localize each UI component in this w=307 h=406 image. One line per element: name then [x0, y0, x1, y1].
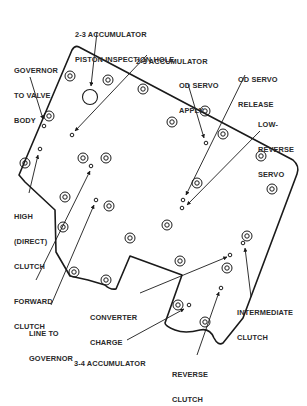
leader-lines	[29, 32, 260, 355]
label-line: APPLY	[179, 107, 219, 115]
bolt-hole-icon	[173, 300, 183, 310]
port-od-servo-release	[181, 198, 185, 202]
port-reverse-clutch	[219, 286, 223, 290]
port-2-3-accumulator	[70, 133, 74, 137]
label-governor-to-valve-body: GOVERNOR TO VALVE BODY	[14, 51, 58, 133]
bolt-hole-icon	[65, 71, 75, 81]
port-low-reverse-servo	[180, 206, 184, 210]
label-line: OD SERVO	[179, 82, 219, 90]
bolt-hole-icon	[162, 220, 172, 230]
port-converter-charge	[228, 253, 232, 257]
label-line: REVERSE	[258, 146, 294, 154]
leader-high-direct-clutch	[29, 155, 38, 193]
label-line: BODY	[14, 117, 58, 125]
port-intermediate-clutch	[241, 241, 245, 245]
bolt-hole-icon	[58, 222, 68, 232]
bolt-hole-icon	[218, 129, 228, 139]
label-line: CLUTCH	[172, 396, 208, 404]
label-line: OD SERVO	[238, 76, 278, 84]
label-line: 3-4 ACCUMULATOR	[74, 360, 146, 368]
label-reverse-clutch: REVERSE CLUTCH	[172, 355, 208, 406]
bolt-hole-icon	[104, 201, 114, 211]
bolt-hole-icon	[60, 192, 70, 202]
label-line: FORWARD	[14, 298, 53, 306]
port-high-direct-clutch	[38, 147, 42, 151]
leader-low-reverse-servo	[187, 131, 260, 205]
leader-converter-charge	[140, 257, 227, 293]
label-line: LINE TO	[29, 330, 73, 338]
label-line: GOVERNOR	[14, 67, 58, 75]
port-line-to-governor	[94, 198, 98, 202]
label-line: CONVERTER	[90, 314, 137, 322]
label-line: 2-3 ACCUMULATOR	[75, 31, 174, 39]
bolt-hole-icon	[101, 153, 111, 163]
label-line: INTERMEDIATE	[237, 309, 293, 317]
label-line: CLUTCH	[237, 334, 293, 342]
label-line: SERVO	[258, 171, 294, 179]
bolt-hole-icon	[138, 84, 148, 94]
label-line-to-governor: LINE TO GOVERNOR	[29, 314, 73, 371]
label-3-4-accumulator: 3-4 ACCUMULATOR	[74, 344, 146, 377]
label-line: TO VALVE	[14, 92, 58, 100]
fluid-ports	[38, 124, 245, 307]
label-low-reverse-servo: LOW- REVERSE SERVO	[258, 105, 294, 187]
port-od-servo-apply	[204, 141, 208, 145]
bolt-hole-icon	[175, 256, 185, 266]
bolt-hole-icon	[242, 231, 252, 241]
label-line: REVERSE	[172, 371, 208, 379]
label-line: (DIRECT)	[14, 238, 47, 246]
bolt-hole-icon	[69, 267, 79, 277]
port-forward-clutch	[89, 164, 93, 168]
port-3-4-accumulator	[187, 303, 191, 307]
label-high-direct-clutch: HIGH (DIRECT) CLUTCH	[14, 197, 47, 279]
label-line: CLUTCH	[14, 263, 47, 271]
bolt-hole-icon	[222, 263, 232, 273]
bolt-hole-icon	[125, 233, 135, 243]
label-line: GOVERNOR	[29, 355, 73, 363]
bolt-hole-icon	[167, 117, 177, 127]
leader-intermediate-clutch	[245, 248, 251, 297]
inspection-hole-icon	[83, 90, 98, 105]
label-line: HIGH	[14, 213, 47, 221]
bolt-hole-icon	[103, 75, 113, 85]
label-line: LOW-	[258, 121, 294, 129]
bolt-hole-icon	[78, 153, 88, 163]
label-intermediate-clutch: INTERMEDIATE CLUTCH	[237, 293, 293, 350]
bolt-hole-icon	[101, 275, 111, 285]
label-od-servo-apply: OD SERVO APPLY	[179, 66, 219, 123]
